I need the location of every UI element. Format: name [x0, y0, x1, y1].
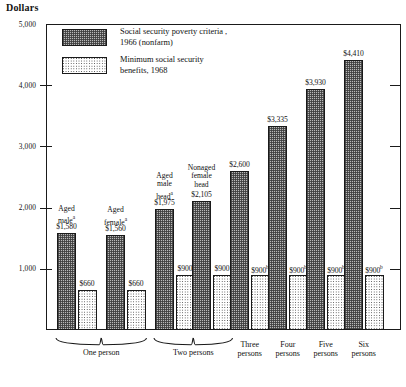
value-label-benefit: $900b — [241, 264, 280, 275]
bar-minimum-benefits — [213, 275, 232, 330]
bar-minimum-benefits — [289, 275, 308, 330]
value-label-benefit: $660 — [117, 279, 156, 288]
value-label-poverty: $3,930 — [296, 78, 335, 87]
y-axis-label: 3,000 — [0, 142, 36, 151]
bar-minimum-benefits — [78, 290, 97, 330]
value-label-benefit: $900b — [279, 264, 318, 275]
value-label-benefit: $900b — [317, 264, 356, 275]
bar-minimum-benefits — [127, 290, 146, 330]
x-axis-category-label: Sixpersons — [322, 340, 406, 359]
legend-swatch — [62, 57, 107, 74]
x-axis-category-label: One person — [59, 348, 143, 357]
y-axis-label: 5,000 — [0, 20, 36, 29]
y-axis-label: 2,000 — [0, 203, 36, 212]
value-label-benefit: $900 — [166, 264, 205, 273]
y-axis-tick — [40, 146, 52, 147]
bar-minimum-benefits — [365, 275, 384, 330]
y-axis-tick-right — [390, 146, 401, 147]
bar-poverty-criteria — [306, 89, 325, 330]
y-axis-label: 1,000 — [0, 264, 36, 273]
legend-label: Minimum social securitybenefits, 1968 — [120, 55, 204, 76]
y-axis-tick — [40, 85, 52, 86]
group-caption: Agedfemalea — [92, 206, 139, 227]
value-label-poverty: $4,410 — [334, 49, 373, 58]
group-caption: Agedmalea — [43, 205, 90, 226]
y-axis-tick-right — [390, 85, 401, 86]
y-axis-tick — [40, 269, 52, 270]
value-label-benefit: $900b — [355, 264, 394, 275]
bar-poverty-criteria — [268, 126, 287, 330]
y-axis-title: Dollars — [6, 2, 39, 13]
legend-label: Social security poverty criteria ,1966 (… — [120, 27, 227, 48]
bar-minimum-benefits — [251, 275, 270, 330]
bar-poverty-criteria — [230, 171, 249, 330]
value-label-benefit: $660 — [68, 279, 107, 288]
value-label-poverty: $2,600 — [220, 160, 259, 169]
value-label-benefit: $900 — [203, 264, 242, 273]
y-axis-tick-right — [390, 208, 401, 209]
x-axis-brace — [54, 337, 149, 346]
value-label-poverty: $3,335 — [258, 115, 297, 124]
group-caption: Nonagedfemalehead — [178, 164, 225, 190]
legend-swatch — [62, 29, 107, 46]
bar-poverty-criteria — [344, 60, 363, 330]
y-axis-label: 4,000 — [0, 81, 36, 90]
bar-minimum-benefits — [327, 275, 346, 330]
bar-chart: Dollars 5,0004,0003,0002,0001,000 $1,580… — [0, 0, 406, 387]
